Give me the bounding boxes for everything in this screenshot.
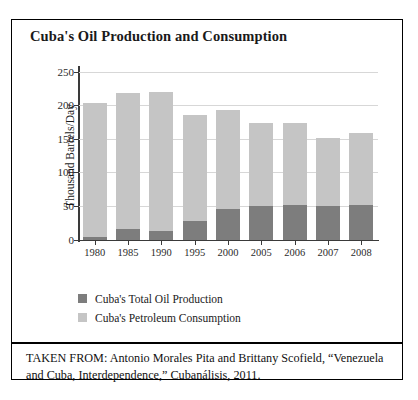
bar-segment-production [149, 231, 173, 239]
legend-swatch-consumption [78, 313, 87, 322]
bar-group [349, 133, 373, 240]
x-tick-label: 2007 [318, 247, 339, 258]
x-tick-mark [161, 241, 162, 245]
x-tick-label: 2006 [284, 247, 305, 258]
legend-item: Cuba's Total Oil Production [78, 292, 378, 305]
bar-group [149, 92, 173, 240]
bar-group [316, 138, 340, 239]
x-tick-mark [95, 241, 96, 245]
bar-segment-production [349, 205, 373, 240]
x-tick-mark [361, 241, 362, 245]
x-tick-mark [128, 241, 129, 245]
bar-group [283, 123, 307, 240]
plot-region: 050100150200250 Thousand Barrels/Day 198… [78, 71, 378, 241]
x-tick-mark [328, 241, 329, 245]
legend-label: Cuba's Total Oil Production [95, 293, 223, 305]
bar-segment-consumption [83, 103, 107, 239]
bar-group [116, 93, 140, 239]
section-divider [12, 342, 402, 344]
legend-item: Cuba's Petroleum Consumption [78, 311, 378, 324]
bar-segment-production [249, 206, 273, 240]
x-tick-label: 2000 [218, 247, 239, 258]
bar-series-group [78, 71, 378, 241]
y-axis-title: Thousand Barrels/Day [64, 104, 76, 208]
x-tick-label: 1995 [184, 247, 205, 258]
page-title: Cuba's Oil Production and Consumption [30, 28, 287, 45]
x-tick-label: 2005 [251, 247, 272, 258]
chart-area: 050100150200250 Thousand Barrels/Day 198… [12, 56, 404, 288]
legend-label: Cuba's Petroleum Consumption [95, 312, 241, 324]
bar-segment-production [283, 205, 307, 239]
bar-group [216, 110, 240, 240]
x-tick-mark [295, 241, 296, 245]
bar-segment-production [83, 237, 107, 239]
x-tick-label: 1985 [118, 247, 139, 258]
bar-group [249, 123, 273, 240]
x-tick-mark [261, 241, 262, 245]
bar-group [83, 103, 107, 239]
x-tick-label: 1980 [84, 247, 105, 258]
y-tick-label: 250 [58, 66, 75, 78]
figure-card: Cuba's Oil Production and Consumption 05… [11, 19, 403, 380]
bar-segment-production [183, 221, 207, 239]
bar-segment-consumption [149, 92, 173, 240]
x-tick-mark [195, 241, 196, 245]
x-tick-mark [228, 241, 229, 245]
chart-legend: Cuba's Total Oil ProductionCuba's Petrol… [78, 292, 378, 330]
legend-swatch-production [78, 294, 87, 303]
y-tick-label: 0 [69, 234, 75, 246]
x-tick-label: 2008 [351, 247, 372, 258]
bar-segment-production [216, 209, 240, 239]
bar-segment-consumption [116, 93, 140, 239]
source-caption: TAKEN FROM: Antonio Morales Pita and Bri… [26, 350, 392, 384]
x-tick-label: 1990 [151, 247, 172, 258]
bar-segment-production [316, 206, 340, 240]
bar-group [183, 115, 207, 240]
bar-segment-production [116, 229, 140, 239]
